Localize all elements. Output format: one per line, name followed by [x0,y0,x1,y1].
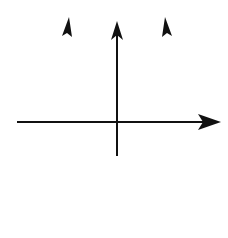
axes [17,30,206,156]
curve-left-arrow-icon [62,17,72,37]
curve-right-arrow-icon [162,17,172,37]
inequality-graph [0,0,228,238]
equation-label-background [64,196,162,220]
